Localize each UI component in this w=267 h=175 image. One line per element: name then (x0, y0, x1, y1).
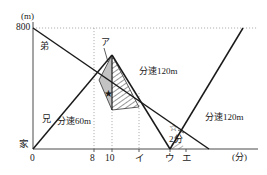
filled-star-icon: ★ (104, 89, 113, 99)
hollow-star-icon: ☆ (169, 123, 178, 133)
region-label-a: ア (101, 38, 110, 47)
x-tick-label-e: エ (182, 154, 192, 164)
leader-line-a (104, 48, 108, 62)
x-tick-label-8: 8 (90, 154, 95, 164)
y-axis-origin-label: 家 (19, 140, 29, 150)
speed-label-descent: 分速120m (139, 67, 178, 76)
series-line-otouto (33, 28, 209, 149)
hatched-region (112, 55, 139, 110)
x-axis-unit-label: (分) (232, 153, 247, 162)
x-tick-label-10: 10 (105, 154, 115, 164)
x-tick-label-u: ウ (165, 154, 175, 164)
y-axis-max-label: 800 (16, 23, 30, 33)
series-label-otouto: 弟 (40, 42, 49, 51)
distance-time-graph (0, 0, 267, 175)
x-tick-label-0: 0 (30, 154, 35, 164)
series-line-ani-outbound (33, 55, 112, 149)
speed-label-ani: 分速60m (57, 117, 91, 126)
duration-label-2min: 2分 (169, 135, 183, 144)
series-line-ani-return (170, 28, 243, 149)
speed-label-return: 分速120m (205, 113, 244, 122)
x-tick-label-i: イ (135, 154, 145, 164)
figure-root: (m) 800 家 0 8 10 イ ウ エ (分) 弟 兄 分速60m 分速1… (0, 0, 267, 175)
y-axis-unit-label: (m) (21, 12, 34, 21)
series-label-ani: 兄 (42, 115, 51, 124)
